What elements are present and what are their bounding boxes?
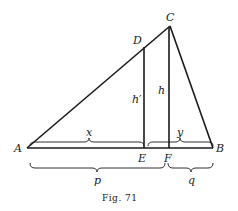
label-p: p [94,174,101,187]
point-label-D: D [132,34,142,47]
segment-AC [27,26,170,148]
label-y: y [176,126,184,139]
label-h: h [158,84,165,97]
triangle-diagram: A B C D E F h′ h x y p q Fig. 71 [0,0,238,211]
point-label-F: F [163,152,172,165]
point-label-E: E [137,152,146,165]
brace-y [148,138,213,146]
label-x: x [86,126,93,139]
brace-q [168,163,213,172]
point-label-B: B [215,142,224,155]
brace-x [30,138,144,146]
point-label-C: C [166,11,175,24]
figure-caption: Fig. 71 [102,193,138,203]
label-q: q [188,174,195,187]
point-label-A: A [13,142,22,155]
label-h-prime: h′ [132,93,142,106]
